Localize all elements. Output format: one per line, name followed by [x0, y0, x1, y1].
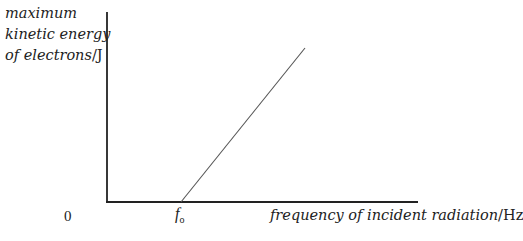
x-axis-label: frequency of incident radiation/Hz [270, 207, 523, 223]
data-line [181, 48, 305, 202]
x-axis-label-text: frequency of incident radiation [270, 207, 498, 223]
threshold-frequency-label: fo [175, 205, 184, 225]
x-axis-unit: Hz [503, 207, 523, 223]
threshold-frequency-subscript: o [179, 214, 184, 225]
origin-label: 0 [64, 208, 72, 225]
